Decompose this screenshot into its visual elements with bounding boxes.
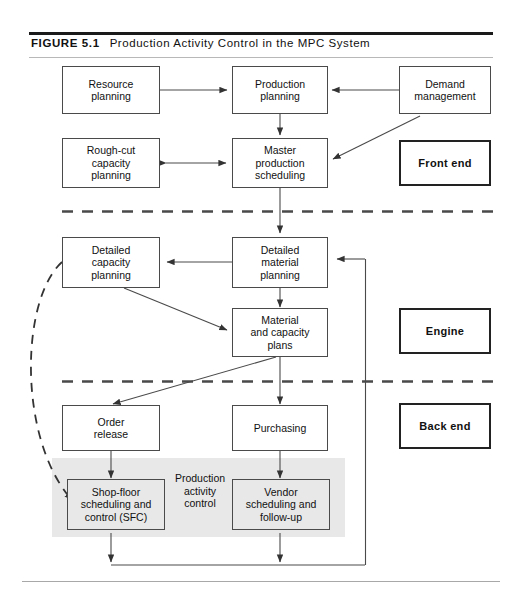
node-label: Vendorscheduling andfollow-up [246,486,317,524]
section-label: Back end [419,420,470,433]
node-demand-management[interactable]: Demandmanagement [399,66,491,114]
node-rough-cut-capacity-planning[interactable]: Rough-cutcapacityplanning [62,138,160,188]
node-purchasing[interactable]: Purchasing [232,405,328,451]
node-vendor-scheduling-and-follow-up[interactable]: Vendorscheduling andfollow-up [232,479,330,530]
node-label: Resourceplanning [89,78,134,103]
section-label-back-end: Back end [399,403,491,449]
node-label: Masterproductionscheduling [255,144,305,182]
section-label-engine: Engine [399,308,491,354]
node-label: Purchasing [254,422,307,435]
node-resource-planning[interactable]: Resourceplanning [62,66,160,114]
node-label: Orderrelease [94,416,128,441]
figure-container: FIGURE 5.1Production Activity Control in… [0,0,521,606]
node-label: Productionplanning [255,78,305,103]
annotation-production-activity-control: Productionactivitycontrol [172,472,228,510]
node-master-production-scheduling[interactable]: Masterproductionscheduling [232,138,328,188]
section-label: Engine [426,325,464,338]
node-production-planning[interactable]: Productionplanning [232,66,328,114]
node-label: Shop-floorscheduling andcontrol (SFC) [81,486,152,524]
node-detailed-material-planning[interactable]: Detailedmaterialplanning [232,237,328,288]
node-label: Rough-cutcapacityplanning [87,144,135,182]
section-label: Front end [418,157,471,170]
node-detailed-capacity-planning[interactable]: Detailedcapacityplanning [62,237,160,288]
node-label: Detailedmaterialplanning [260,244,300,282]
node-material-and-capacity-plans[interactable]: Materialand capacityplans [232,308,328,357]
node-shop-floor-scheduling-and-control[interactable]: Shop-floorscheduling andcontrol (SFC) [67,479,165,530]
section-label-front-end: Front end [399,140,491,186]
node-label: Demandmanagement [414,78,475,103]
node-label: Materialand capacityplans [251,314,310,352]
node-label: Detailedcapacityplanning [91,244,131,282]
node-order-release[interactable]: Orderrelease [62,405,160,451]
annotation-label: Productionactivitycontrol [175,472,225,509]
